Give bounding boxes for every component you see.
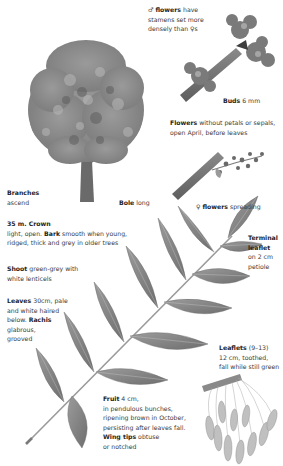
tree-illustration [28, 40, 144, 202]
branches-label: Branches ascend [7, 188, 39, 207]
male-flowers-label: ♂ flowers have stamens set more densely … [148, 5, 204, 34]
leaves-rachis-label: Leaves 30cm, pale and white haired below… [7, 296, 68, 344]
buds-label: Buds 6 mm [223, 96, 260, 106]
crown-bark-label: 35 m. Crown light, open. Bark smooth whe… [7, 219, 127, 248]
flowers-label: Flowers without petals or sepals, open A… [170, 118, 275, 137]
fruit-label: Fruit 4 cm, in pendulous bunches, ripeni… [103, 394, 186, 452]
leaflets-label: Leaflets (9–13) 12 cm, toothed, fall whi… [219, 343, 279, 372]
terminal-leaflet-label: Terminal leaflet on 2 cm petiole [248, 233, 278, 271]
female-flowers-label: ♀ flowers spreading [196, 202, 261, 212]
female-symbol: ♀ [196, 203, 201, 210]
fruit-cluster-illustration [202, 374, 279, 464]
male-symbol: ♂ [148, 6, 154, 13]
female-flower-twig-illustration [172, 152, 264, 200]
bole-label: Bole long [119, 198, 150, 208]
shoot-label: Shoot green-grey with white lenticels [7, 264, 78, 283]
